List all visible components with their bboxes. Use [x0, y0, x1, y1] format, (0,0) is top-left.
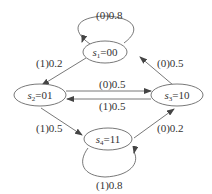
- edge-label-s3-s2: (1)0.5: [99, 100, 126, 113]
- edge-label-s2-s3: (0)0.5: [99, 78, 126, 91]
- edge-label-s4-s3: (0)0.2: [157, 122, 184, 135]
- svg-text:s2=01: s2=01: [28, 89, 53, 103]
- node-s1: s1=00: [83, 41, 127, 63]
- state-diagram: (0)0.8 (1)0.2 (0)0.5 (0)0.5 (1)0.5 (1)0.…: [0, 0, 212, 194]
- edge-s4-s4: [83, 148, 136, 177]
- svg-text:s1=00: s1=00: [93, 46, 118, 60]
- edge-label-s3-s1: (0)0.5: [157, 57, 184, 70]
- edge-label-s4-s4: (1)0.8: [96, 179, 123, 192]
- arrow-head: [134, 148, 135, 153]
- node-s4: s4=11: [84, 128, 132, 150]
- node-s3: s3=10: [151, 84, 203, 106]
- node-s2: s2=01: [14, 84, 66, 106]
- edge-label-s1-s1: (0)0.8: [96, 9, 123, 22]
- edge-label-s1-s2: (1)0.2: [36, 57, 63, 70]
- svg-text:s3=10: s3=10: [165, 89, 190, 103]
- svg-text:s4=11: s4=11: [96, 133, 121, 147]
- edge-label-s2-s4: (1)0.5: [36, 122, 63, 135]
